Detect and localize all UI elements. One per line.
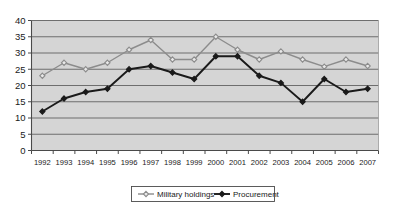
x-tick-label-1992: 1992 [34, 158, 51, 167]
x-tick-label-1999: 1999 [186, 158, 203, 167]
x-tick-label-1997: 1997 [142, 158, 159, 167]
legend-label-military-holdings: Military holdings [157, 190, 214, 199]
y-tick-label-10: 10 [15, 112, 26, 123]
x-tick-label-1998: 1998 [164, 158, 181, 167]
x-tick-label-1993: 1993 [56, 158, 73, 167]
y-tick-label-40: 40 [15, 15, 26, 26]
y-tick-label-15: 15 [15, 96, 26, 107]
y-tick-label-30: 30 [15, 47, 26, 58]
clipped-chart-title [0, 0, 393, 3]
legend-label-procurement: Procurement [233, 190, 280, 199]
x-tick-label-1996: 1996 [121, 158, 138, 167]
x-tick-label-2007: 2007 [359, 158, 376, 167]
x-tick-label-2005: 2005 [316, 158, 333, 167]
y-tick-label-5: 5 [20, 129, 25, 140]
y-tick-label-0: 0 [20, 145, 25, 156]
x-tick-label-2002: 2002 [251, 158, 268, 167]
y-tick-label-35: 35 [15, 31, 26, 42]
x-tick-label-2000: 2000 [207, 158, 224, 167]
chart-legend: Military holdingsProcurement [132, 187, 280, 202]
x-tick-label-1994: 1994 [77, 158, 94, 167]
y-tick-label-20: 20 [15, 80, 26, 91]
y-tick-label-25: 25 [15, 64, 26, 75]
x-axis-tick-labels: 1992199319941995199619971998199920002001… [32, 151, 379, 168]
y-axis-tick-labels: 0510152025303540 [15, 15, 32, 156]
line-chart: 0510152025303540 19921993199419951996199… [0, 0, 393, 222]
x-tick-label-2004: 2004 [294, 158, 311, 167]
x-tick-label-2001: 2001 [229, 158, 246, 167]
x-tick-label-1995: 1995 [99, 158, 116, 167]
x-tick-label-2003: 2003 [272, 158, 289, 167]
x-tick-label-2006: 2006 [338, 158, 355, 167]
chart-canvas: 0510152025303540 19921993199419951996199… [0, 0, 393, 222]
